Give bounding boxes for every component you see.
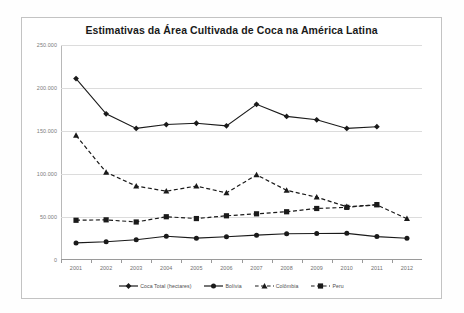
- x-axis-tick-label: 2012: [401, 265, 413, 271]
- data-point-marker: [74, 240, 79, 245]
- data-point-marker: [284, 231, 289, 236]
- series-line: [76, 233, 407, 243]
- data-point-marker: [284, 209, 289, 214]
- data-point-marker: [314, 231, 319, 236]
- square-legend-swatch-icon: [311, 282, 330, 290]
- data-point-marker: [164, 234, 169, 239]
- y-axis-tick-label: 250.000: [37, 42, 57, 48]
- data-point-marker: [126, 283, 132, 289]
- data-point-marker: [133, 126, 139, 132]
- x-axis-tick-label: 2006: [220, 265, 232, 271]
- x-axis-tick-mark: [362, 260, 363, 263]
- data-point-marker: [73, 218, 78, 223]
- circle-legend-swatch-icon: [204, 282, 223, 290]
- legend-label: Bolívia: [225, 283, 241, 289]
- data-point-marker: [133, 183, 139, 189]
- series-line: [76, 79, 377, 129]
- data-point-marker: [194, 236, 199, 241]
- x-axis-tick-label: 2010: [341, 265, 353, 271]
- data-point-marker: [193, 120, 199, 126]
- plot-area: 050.000100.000150.000200.000250.000 2001…: [61, 45, 422, 260]
- x-axis-tick-label: 2004: [160, 265, 172, 271]
- data-point-marker: [224, 213, 229, 218]
- chart-legend: Coca Total (hectares)BolíviaColômbiaPeru: [22, 282, 441, 290]
- chart-frame: Estimativas da Área Cultivada de Coca na…: [21, 17, 442, 299]
- x-axis-tick-label: 2001: [70, 265, 82, 271]
- data-point-marker: [73, 132, 79, 138]
- legend-label: Peru: [332, 283, 343, 289]
- x-axis-tick-label: 2011: [371, 265, 383, 271]
- data-point-marker: [314, 117, 320, 123]
- legend-item[interactable]: Coca Total (hectares): [119, 282, 191, 290]
- x-axis-tick-mark: [211, 260, 212, 263]
- data-point-marker: [344, 126, 350, 132]
- data-point-marker: [194, 216, 199, 221]
- legend-item[interactable]: Peru: [311, 282, 343, 290]
- x-axis-tick-mark: [61, 260, 62, 263]
- data-point-marker: [163, 122, 169, 128]
- y-axis-tick-label: 0: [54, 257, 57, 263]
- data-point-marker: [193, 183, 199, 189]
- data-point-marker: [254, 172, 260, 177]
- x-axis-tick-mark: [332, 260, 333, 263]
- y-axis-tick-label: 200.000: [37, 85, 57, 91]
- x-axis-tick-mark: [91, 260, 92, 263]
- y-axis-tick-label: 150.000: [37, 128, 57, 134]
- data-point-marker: [103, 169, 109, 175]
- data-point-marker: [284, 113, 290, 119]
- data-point-marker: [104, 239, 109, 244]
- y-axis-tick-label: 100.000: [37, 171, 57, 177]
- x-axis-tick-mark: [272, 260, 273, 263]
- data-point-marker: [164, 214, 169, 219]
- y-axis-tick-label: 50.000: [40, 214, 57, 220]
- data-point-marker: [404, 236, 409, 241]
- x-axis-tick-label: 2007: [250, 265, 262, 271]
- data-point-marker: [344, 231, 349, 236]
- data-point-marker: [284, 187, 290, 193]
- x-axis-tick-label: 2002: [100, 265, 112, 271]
- x-axis-tick-mark: [392, 260, 393, 263]
- triangle-legend-swatch-icon: [255, 282, 274, 290]
- diamond-legend-swatch-icon: [119, 282, 138, 290]
- legend-item[interactable]: Bolívia: [204, 282, 241, 290]
- data-point-marker: [318, 283, 323, 288]
- data-point-marker: [254, 211, 259, 216]
- data-point-marker: [314, 194, 320, 200]
- data-point-marker: [134, 237, 139, 242]
- x-axis-tick-mark: [151, 260, 152, 263]
- x-axis-tick-label: 2008: [280, 265, 292, 271]
- legend-label: Coca Total (hectares): [140, 283, 191, 289]
- series-line: [76, 135, 407, 218]
- x-axis-tick-mark: [242, 260, 243, 263]
- data-point-marker: [374, 202, 379, 207]
- legend-item[interactable]: Colômbia: [255, 282, 299, 290]
- data-point-marker: [223, 190, 229, 196]
- data-point-marker: [374, 234, 379, 239]
- data-point-marker: [314, 206, 319, 211]
- data-point-marker: [224, 234, 229, 239]
- x-axis-tick-mark: [302, 260, 303, 263]
- x-axis-tick-label: 2009: [311, 265, 323, 271]
- data-point-marker: [211, 284, 216, 289]
- data-point-marker: [254, 233, 259, 238]
- x-axis-tick-label: 2005: [190, 265, 202, 271]
- chart-page: Estimativas da Área Cultivada de Coca na…: [0, 0, 464, 313]
- x-axis-tick-mark: [181, 260, 182, 263]
- series-layer: [61, 45, 422, 260]
- legend-label: Colômbia: [276, 283, 299, 289]
- data-point-marker: [104, 217, 109, 222]
- data-point-marker: [374, 124, 380, 130]
- x-axis-tick-label: 2003: [130, 265, 142, 271]
- x-axis-tick-mark: [121, 260, 122, 263]
- chart-title: Estimativas da Área Cultivada de Coca na…: [22, 24, 441, 36]
- data-point-marker: [344, 205, 349, 210]
- data-point-marker: [134, 219, 139, 224]
